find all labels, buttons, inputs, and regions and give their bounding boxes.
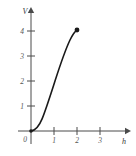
curve-origin-dot [29,129,33,133]
x-tick-label-1: 1 [52,136,56,145]
origin-label: 0 [23,135,27,144]
y-tick-label-1: 1 [20,102,24,111]
x-tick-label-3: 3 [97,136,102,145]
y-tick-label-2: 2 [20,77,24,86]
y-tick-label-3: 3 [19,52,24,61]
graph-figure: 1 2 3 4 1 2 3 0 V h [0,0,136,156]
curve-endpoint-dot [75,28,80,33]
y-tick-label-4: 4 [20,27,24,36]
x-axis-arrow-icon [125,128,131,134]
volume-curve [31,30,77,131]
x-axis-label: h [122,137,126,146]
y-axis-label: V [23,7,29,16]
x-tick-label-2: 2 [75,136,79,145]
plot-area: 1 2 3 4 1 2 3 0 V h [0,0,136,156]
y-axis-arrow-icon [28,7,34,13]
